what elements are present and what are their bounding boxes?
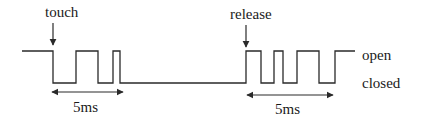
release-duration-label: 5ms (275, 101, 300, 117)
touch-duration-label: 5ms (73, 99, 98, 115)
touch-label: touch (45, 4, 79, 20)
closed-level-label: closed (362, 75, 401, 91)
release-label: release (230, 6, 272, 22)
signal-waveform (22, 51, 355, 83)
switch-bounce-diagram: touch release open closed 5ms 5ms (0, 0, 425, 118)
open-level-label: open (362, 47, 392, 63)
